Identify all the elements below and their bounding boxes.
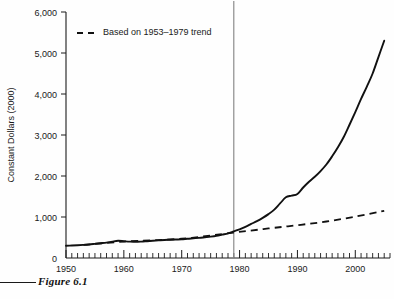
x-tick-label: 2000 (345, 264, 365, 272)
x-tick-label: 1990 (287, 264, 307, 272)
chart-axes (66, 12, 390, 258)
y-tick-label: 3,000 (34, 131, 57, 141)
y-tick-label: 5,000 (34, 49, 57, 59)
x-tick-label: 1950 (56, 264, 76, 272)
y-tick-label: 2,000 (34, 172, 57, 182)
y-axis-tick-labels: 01,0002,0003,0004,0005,0006,000 (34, 8, 57, 264)
chart-legend: Based on 1953–1979 trend (77, 27, 212, 37)
y-tick-label: 6,000 (34, 8, 57, 18)
figure-container: 01,0002,0003,0004,0005,0006,000 19501960… (0, 0, 394, 299)
line-chart: 01,0002,0003,0004,0005,0006,000 19501960… (0, 0, 394, 272)
x-tick-label: 1980 (230, 264, 250, 272)
x-tick-label: 1960 (114, 264, 134, 272)
legend-label-trend: Based on 1953–1979 trend (103, 27, 212, 37)
x-axis-tick-labels: 195019601970198019902000 (56, 264, 365, 272)
y-axis-title: Constant Dollars (2000) (6, 87, 16, 182)
series-actual-line (66, 41, 384, 246)
x-axis-minor-ticks (66, 250, 390, 258)
figure-caption-label: Figure 6.1 (38, 275, 88, 287)
y-tick-label: 1,000 (34, 213, 57, 223)
y-axis-ticks (61, 12, 66, 217)
x-tick-label: 1970 (172, 264, 192, 272)
y-tick-label: 0 (52, 254, 57, 264)
caption-rule (0, 282, 36, 283)
y-tick-label: 4,000 (34, 90, 57, 100)
figure-caption-area: Figure 6.1 (0, 273, 394, 299)
